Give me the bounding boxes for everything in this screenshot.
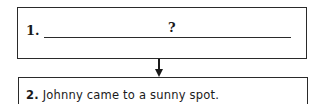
down-arrow-icon xyxy=(155,69,163,77)
step-2-content: 2. Johnny came to a sunny spot. xyxy=(26,88,219,102)
step-2-text: Johnny came to a sunny spot. xyxy=(43,88,219,102)
step-2-box: 2. Johnny came to a sunny spot. xyxy=(18,77,308,104)
step-1-question-mark: ? xyxy=(168,20,176,35)
step-1-box: 1. ? xyxy=(17,7,307,59)
step-1-number: 1. xyxy=(26,23,40,38)
step-2-number: 2. xyxy=(26,88,39,102)
step-1-blank-line xyxy=(44,37,291,38)
